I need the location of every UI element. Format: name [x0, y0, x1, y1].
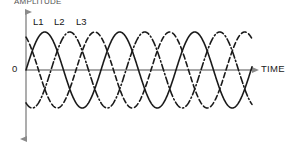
legend-label-l1: L1	[33, 17, 44, 27]
time-axis-label: TIME	[261, 64, 285, 74]
legend-label-l2: L2	[54, 17, 65, 27]
legend-label-l3: L3	[76, 17, 87, 27]
waveform-plot	[0, 0, 294, 152]
amplitude-axis-label: AMPLITUDE	[14, 0, 62, 6]
waveform-figure: AMPLITUDE L1 L2 L3 0 TIME	[0, 0, 294, 152]
origin-tick-label: 0	[12, 64, 17, 74]
